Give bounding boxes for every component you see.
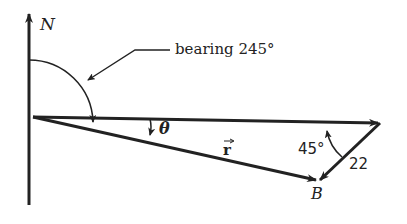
diagram-drawing	[0, 0, 407, 224]
vector-diagram: N bearing 245° θ r 45° 22 B	[0, 0, 407, 224]
r-vector-label: r	[223, 141, 231, 159]
bearing-arc	[29, 60, 93, 122]
length-22-label: 22	[349, 155, 368, 173]
vector-a	[33, 117, 378, 123]
theta-arc	[150, 119, 151, 135]
bearing-label: bearing 245°	[175, 40, 275, 58]
bearing-leader	[88, 50, 170, 80]
angle-45-arc	[327, 131, 342, 157]
point-b-label: B	[311, 184, 323, 203]
theta-label: θ	[159, 119, 170, 138]
angle-45-label: 45°	[298, 140, 325, 158]
vector-r	[33, 117, 316, 180]
north-label: N	[40, 14, 55, 34]
